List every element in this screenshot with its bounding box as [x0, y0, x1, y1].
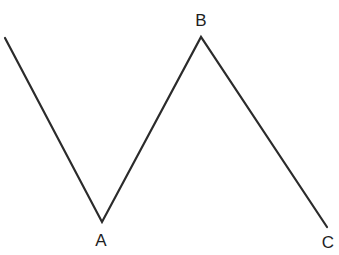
- zigzag-polyline-canvas: [0, 0, 339, 255]
- zigzag-diagram: A B C: [0, 0, 339, 255]
- vertex-label-b: B: [195, 12, 206, 29]
- vertex-label-c: C: [322, 234, 334, 251]
- vertex-label-a: A: [95, 232, 106, 249]
- zigzag-polyline: [5, 37, 327, 227]
